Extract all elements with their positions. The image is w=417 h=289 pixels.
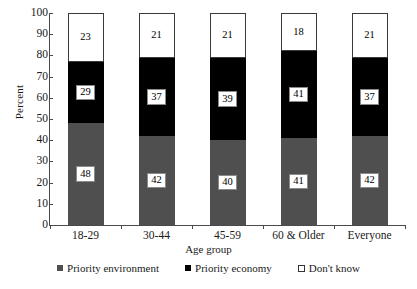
bar-segment-value-label: 42 [147,173,166,189]
bar-segment-economy[interactable]: 29 [68,62,104,123]
y-tick-mark [49,204,53,205]
bar-segment-value-label: 41 [289,174,308,190]
legend-label: Priority economy [195,262,272,274]
bar-segment-value-label: 18 [293,27,304,38]
y-tick-label: 10 [22,198,48,210]
y-tick-label: 90 [22,28,48,40]
bar-segment-dont-know[interactable]: 18 [281,13,317,51]
chart-legend: Priority environmentPriority economyDon'… [0,262,417,274]
bar-segment-value-label: 42 [360,173,379,189]
bar-stack[interactable]: 482923 [68,13,104,225]
bar-segment-economy[interactable]: 37 [352,58,388,136]
bar-segment-value-label: 40 [218,175,237,191]
y-tick-mark [49,34,53,35]
bar-segment-economy[interactable]: 41 [281,51,317,138]
legend-item-economy[interactable]: Priority economy [185,262,272,274]
x-tick-mark [50,225,51,229]
x-axis-line [49,225,405,226]
y-tick-label: 100 [22,7,48,19]
stacked-bar-chart: Percent 1009080706050403020100 482923423… [0,0,417,289]
legend-swatch-icon [57,265,63,271]
bar-segment-value-label: 21 [222,30,233,41]
y-tick-label: 20 [22,177,48,189]
x-tick-mark [263,225,264,229]
y-tick-mark [49,161,53,162]
y-tick-mark [49,140,53,141]
legend-swatch-icon [298,265,305,272]
y-tick-mark [49,13,53,14]
y-tick-label: 50 [22,113,48,125]
bar-segment-environment[interactable]: 48 [68,123,104,225]
bar-stack[interactable]: 414118 [281,13,317,225]
x-tick-mark [405,225,406,229]
x-tick-mark [334,225,335,229]
bar-segment-dont-know[interactable]: 23 [68,13,104,62]
bar-segment-environment[interactable]: 41 [281,138,317,225]
bar-segment-economy[interactable]: 37 [139,58,175,136]
bar-segment-environment[interactable]: 42 [352,136,388,225]
bar-segment-dont-know[interactable]: 21 [139,13,175,58]
bar-segment-value-label: 21 [151,30,162,41]
y-tick-label: 60 [22,92,48,104]
legend-label: Don't know [309,262,360,274]
legend-swatch-icon [185,265,191,271]
bar-segment-value-label: 39 [218,91,237,107]
y-tick-mark [49,119,53,120]
bar-stack[interactable]: 423721 [139,13,175,225]
bar-segment-value-label: 29 [76,85,95,101]
bar-segment-economy[interactable]: 39 [210,58,246,141]
y-tick-mark [49,98,53,99]
y-tick-label: 80 [22,50,48,62]
bar-segment-dont-know[interactable]: 21 [210,13,246,58]
bar-segment-environment[interactable]: 40 [210,140,246,225]
y-tick-mark [49,77,53,78]
legend-item-dont-know[interactable]: Don't know [298,262,360,274]
bar-segment-value-label: 37 [147,89,166,105]
bar-stack[interactable]: 403921 [210,13,246,225]
bar-segment-environment[interactable]: 42 [139,136,175,225]
x-tick-label: Everyone [324,229,416,242]
bar-segment-value-label: 37 [360,89,379,105]
bar-stack[interactable]: 423721 [352,13,388,225]
x-tick-mark [121,225,122,229]
y-tick-mark [49,55,53,56]
x-tick-mark [192,225,193,229]
legend-label: Priority environment [67,262,159,274]
y-tick-label: 70 [22,71,48,83]
y-tick-label: 40 [22,134,48,146]
bar-segment-value-label: 21 [364,30,375,41]
plot-area: 482923423721403921414118423721 [50,13,405,225]
x-axis-title: Age group [0,243,417,255]
y-tick-label: 30 [22,156,48,168]
bar-segment-dont-know[interactable]: 21 [352,13,388,58]
bar-segment-value-label: 48 [76,166,95,182]
bar-segment-value-label: 23 [80,32,91,43]
bar-segment-value-label: 41 [289,87,308,103]
legend-item-environment[interactable]: Priority environment [57,262,159,274]
y-tick-mark [49,183,53,184]
